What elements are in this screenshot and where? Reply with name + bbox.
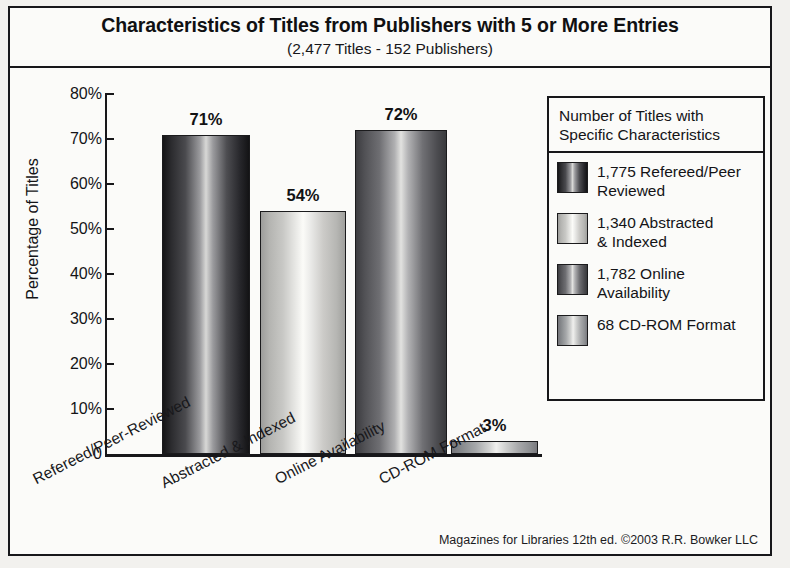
legend-heading-line-1: Number of Titles with: [559, 106, 757, 125]
legend-item-list: 1,775 Refereed/PeerReviewed1,340 Abstrac…: [549, 153, 763, 346]
legend-item-label: 1,340 Abstracted& Indexed: [597, 213, 713, 251]
legend-swatch-icon: [557, 264, 588, 295]
legend-item-label: 1,775 Refereed/PeerReviewed: [597, 162, 741, 200]
legend-swatch-icon: [557, 213, 588, 244]
legend-item[interactable]: 68 CD-ROM Format: [557, 315, 757, 346]
legend-heading: Number of Titles with Specific Character…: [549, 98, 763, 153]
chart-title: Characteristics of Titles from Publisher…: [10, 14, 770, 37]
legend-item-label-line-1: 1,775 Refereed/Peer: [597, 163, 741, 182]
bar-value-label: 71%: [162, 110, 250, 129]
bar-value-label: 54%: [260, 186, 346, 205]
legend-item-label-line-2: Reviewed: [597, 182, 741, 201]
chart-frame: Characteristics of Titles from Publisher…: [8, 6, 772, 556]
legend-item[interactable]: 1,775 Refereed/PeerReviewed: [557, 162, 757, 200]
source-credit: Magazines for Libraries 12th ed. ©2003 R…: [439, 533, 758, 547]
chart-subtitle: (2,477 Titles - 152 Publishers): [10, 40, 770, 58]
legend-item-label-line-1: 68 CD-ROM Format: [597, 316, 736, 335]
legend-item-label: 68 CD-ROM Format: [597, 315, 736, 335]
legend-heading-line-2: Specific Characteristics: [559, 125, 757, 144]
legend-swatch-icon: [557, 315, 588, 346]
legend-item[interactable]: 1,782 OnlineAvailability: [557, 264, 757, 302]
legend-item-label-line-2: & Indexed: [597, 233, 713, 252]
plot-area: Percentage of Titles 010%20%30%40%50%60%…: [10, 68, 770, 554]
legend-item-label-line-1: 1,782 Online: [597, 265, 685, 284]
legend-item-label-line-2: Availability: [597, 284, 685, 303]
legend-item-label-line-1: 1,340 Abstracted: [597, 214, 713, 233]
bar-3[interactable]: [355, 130, 447, 454]
legend-item-label: 1,782 OnlineAvailability: [597, 264, 685, 302]
legend-swatch-icon: [557, 162, 588, 193]
chart-legend: Number of Titles with Specific Character…: [547, 96, 765, 401]
chart-header: Characteristics of Titles from Publisher…: [10, 8, 770, 68]
legend-item[interactable]: 1,340 Abstracted& Indexed: [557, 213, 757, 251]
bar-value-label: 72%: [355, 105, 447, 124]
